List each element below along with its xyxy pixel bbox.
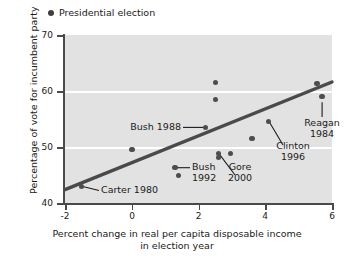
x-axis-title-line1: Percent change in real per capita dispos…: [52, 228, 301, 239]
datapoint-8[interactable]: [314, 81, 319, 86]
chart-legend: Presidential election: [48, 6, 155, 20]
datapoint-1[interactable]: [129, 147, 134, 152]
annotation-bush-1992: Bush 1992: [192, 162, 216, 183]
y-axis-title: Percentage of vote for incumbent party: [29, 24, 39, 194]
x-axis-title-line2: in election year: [0, 240, 354, 252]
y-tick-label-50: 50: [42, 143, 53, 152]
x-tick-label-minus2: -2: [55, 212, 75, 221]
datapoint-6[interactable]: [228, 151, 233, 156]
annotation-carter-1980: Carter 1980: [101, 185, 158, 196]
x-tick-label-6: 6: [322, 212, 342, 221]
x-tick-4: [265, 204, 267, 210]
x-axis-title: Percent change in real per capita dispos…: [0, 228, 354, 252]
datapoint-reagan-1984[interactable]: [319, 94, 324, 99]
y-tick-label-60: 60: [42, 87, 53, 96]
annotation-clinton-1996: Clinton 1996: [271, 141, 315, 162]
annotation-bush-1988: Bush 1988: [119, 122, 181, 133]
y-tick-label-40: 40: [42, 199, 53, 208]
datapoint-bush-1988[interactable]: [203, 125, 208, 130]
annotation-reagan-1984: Reagan 1984: [299, 118, 345, 139]
scatter-chart-figure: Presidential election Percentage of vote…: [0, 0, 354, 260]
filled-circle-icon: [48, 10, 54, 16]
x-tick-0: [132, 204, 134, 210]
x-tick-2: [199, 204, 201, 210]
x-tick-minus2: [65, 204, 67, 210]
legend-label-presidential-election: Presidential election: [59, 8, 155, 18]
datapoint-4[interactable]: [213, 97, 218, 102]
x-tick-label-0: 0: [122, 212, 142, 221]
x-tick-6: [332, 204, 334, 210]
annotation-gore-2000: Gore 2000: [221, 162, 259, 183]
plot-area: Carter 1980 Bush 1988 Bush 1992 Gore 200…: [65, 35, 332, 203]
x-tick-label-4: 4: [255, 212, 275, 221]
datapoint-7[interactable]: [249, 136, 254, 141]
y-tick-label-70: 70: [42, 31, 53, 40]
x-tick-label-2: 2: [189, 212, 209, 221]
